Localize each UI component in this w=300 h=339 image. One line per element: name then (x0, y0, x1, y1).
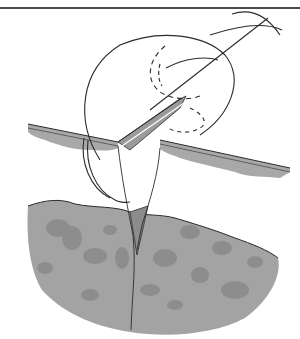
skin-left (28, 124, 118, 151)
wound-edge (118, 96, 186, 150)
skin-right (160, 140, 290, 178)
suture-illustration (0, 0, 300, 339)
tissue-layer (28, 200, 279, 334)
